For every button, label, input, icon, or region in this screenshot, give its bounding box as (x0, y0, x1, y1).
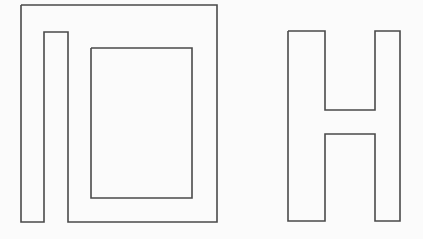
figure-svg (0, 0, 423, 239)
canvas-background (0, 0, 423, 239)
drawing-canvas (0, 0, 423, 239)
